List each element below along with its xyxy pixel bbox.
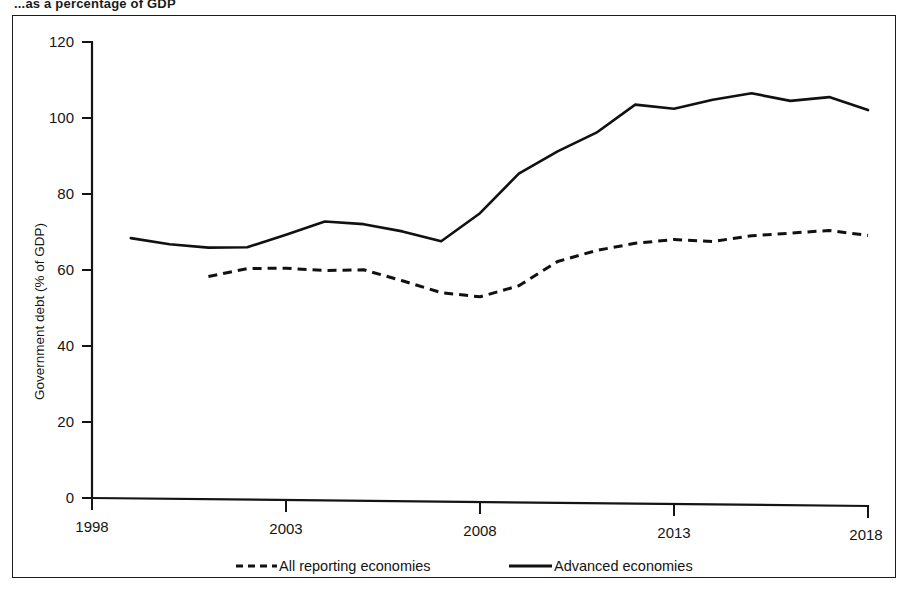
series-line-all-reporting-economies: [208, 230, 868, 296]
y-tick-label: 60: [57, 261, 74, 278]
x-tick-label: 2008: [463, 522, 496, 539]
y-axis-tick-labels: 120 100 80 60 40 20 0: [49, 33, 74, 506]
y-tick-label: 100: [49, 109, 74, 126]
y-tick-label: 20: [57, 413, 74, 430]
y-tick-label: 40: [57, 337, 74, 354]
legend-label-all-reporting-economies: All reporting economies: [279, 558, 431, 574]
y-tick-label: 80: [57, 185, 74, 202]
y-axis-ticks: [82, 42, 92, 498]
x-axis-tick-labels: 1998 2003 2008 2013 2018: [75, 518, 882, 543]
x-tick-label: 2018: [849, 526, 882, 543]
x-tick-label: 2013: [657, 524, 690, 541]
y-axis-title: Government debt (% of GDP): [32, 223, 47, 400]
figure-container: ...as a percentage of GDP 120 100 80 60 …: [0, 0, 909, 592]
y-tick-label: 0: [66, 489, 74, 506]
x-tick-label: 1998: [75, 518, 108, 535]
chart-legend: All reporting economies Advanced economi…: [236, 558, 693, 574]
line-chart: 120 100 80 60 40 20 0 Government debt (%…: [0, 0, 909, 592]
legend-label-advanced-economies: Advanced economies: [554, 558, 693, 574]
y-tick-label: 120: [49, 33, 74, 50]
series-line-advanced-economies: [131, 93, 868, 247]
x-tick-label: 2003: [269, 520, 302, 537]
